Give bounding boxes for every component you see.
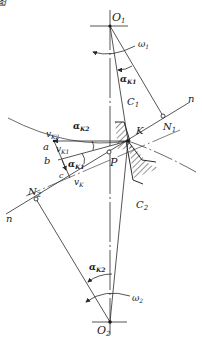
label-alpha-k2-bottom: αK2 [89, 262, 105, 273]
label-vk2: vK2 [46, 129, 60, 140]
label-a: a [43, 141, 49, 152]
figure-title-fragment: 图 [0, 0, 8, 7]
label-vk: vK [74, 177, 84, 188]
o2-n2-line [36, 199, 110, 322]
label-c: c [59, 171, 64, 180]
point-o1 [108, 24, 111, 27]
point-o2 [108, 320, 112, 324]
tooth-c2-hatch [128, 141, 160, 178]
label-o1: O1 [112, 11, 126, 25]
omega2-arc [86, 293, 130, 302]
point-p [107, 150, 111, 154]
label-b: b [44, 155, 50, 166]
gear-meshing-diagram: 图 O1 O2 P K N1 N2 a b c ω1 ω [0, 0, 202, 340]
alpha-k2-bottom-arc [88, 274, 112, 282]
label-n1: N1 [162, 121, 176, 134]
label-omega2: ω2 [132, 293, 143, 304]
label-n-top: n [188, 93, 194, 104]
label-k: K [135, 125, 144, 136]
label-c2: C2 [136, 199, 149, 212]
alpha-k1-top-arc [118, 66, 132, 70]
point-a [53, 140, 55, 142]
label-vk1: vK1 [56, 144, 69, 155]
label-c1: C1 [127, 96, 139, 109]
label-alpha-k1-top: αK1 [120, 74, 136, 85]
label-p: P [109, 156, 118, 169]
line-of-action [6, 102, 190, 214]
point-n1 [161, 114, 165, 118]
label-alpha-k2-top: αK2 [73, 121, 89, 132]
vk-arrow [62, 160, 66, 170]
label-alpha-k1-mid: αK1 [68, 159, 84, 170]
point-k [126, 139, 130, 143]
label-omega1: ω1 [138, 39, 149, 50]
label-o2: O2 [97, 324, 111, 338]
label-n-bottom: n [6, 213, 12, 224]
